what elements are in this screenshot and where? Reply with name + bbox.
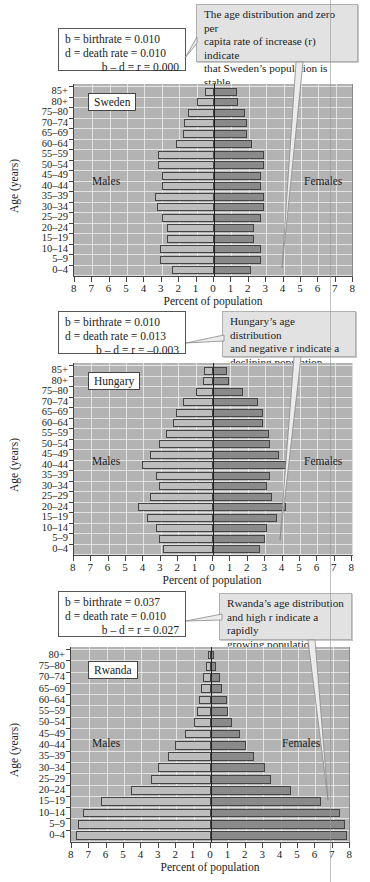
callout-line: Rwanda’s age distribution <box>227 597 344 611</box>
x-tick-label: 3 <box>255 848 269 860</box>
females-label: Females <box>282 737 320 749</box>
y-tick <box>66 818 70 819</box>
bar-male <box>78 820 211 829</box>
bar-female <box>211 786 291 795</box>
callout-line: and high r indicate a rapidly <box>227 611 344 638</box>
y-tick <box>66 705 70 706</box>
age-label: 10–14 <box>21 807 65 818</box>
bar-male <box>201 684 211 693</box>
y-tick <box>66 649 70 650</box>
bar-female <box>211 797 321 806</box>
age-label: 25–29 <box>21 773 65 784</box>
y-tick <box>66 796 70 797</box>
bar-male <box>175 741 211 750</box>
x-tick-label: 7 <box>325 848 339 860</box>
country-label: Rwanda <box>88 661 138 679</box>
bar-male <box>203 673 211 682</box>
bar-male <box>199 696 211 705</box>
age-label: 20–24 <box>21 784 65 795</box>
bar-female <box>211 741 246 750</box>
bar-female <box>211 752 254 761</box>
bar-male <box>185 730 211 739</box>
bar-female <box>211 809 340 818</box>
y-tick <box>66 683 70 684</box>
x-tick-label: 2 <box>168 848 182 860</box>
x-tick-label: 1 <box>220 848 234 860</box>
y-tick <box>66 717 70 718</box>
y-tick <box>66 762 70 763</box>
bar-male <box>197 707 211 716</box>
x-tick-label: 8 <box>64 848 78 860</box>
x-tick-label: 4 <box>273 848 287 860</box>
gridline-horizontal <box>71 841 349 842</box>
bar-female <box>211 718 232 727</box>
y-tick <box>66 751 70 752</box>
bar-male <box>194 718 211 727</box>
age-label: 70–74 <box>21 671 65 682</box>
age-label: 80+ <box>21 649 65 660</box>
age-label: 50–54 <box>21 716 65 727</box>
age-label: 40–44 <box>21 739 65 750</box>
bar-male <box>101 797 211 806</box>
age-label: 75–80 <box>21 660 65 671</box>
panel-rwanda: b = birthrate = 0.037d = death rate = 0.… <box>0 0 370 882</box>
bar-male <box>158 763 211 772</box>
bar-male <box>83 809 211 818</box>
y-tick <box>66 773 70 774</box>
age-label: 35–39 <box>21 750 65 761</box>
bar-female <box>211 707 228 716</box>
rate-stats-box: b = birthrate = 0.037d = death rate = 0.… <box>58 591 186 637</box>
x-tick-label: 7 <box>81 848 95 860</box>
bar-female <box>211 684 222 693</box>
bar-male <box>168 752 212 761</box>
y-axis-title: Age (years) <box>8 723 20 777</box>
x-tick-label: 5 <box>290 848 304 860</box>
bar-male <box>131 786 211 795</box>
zero-axis-line <box>211 647 212 842</box>
age-label: 55–59 <box>21 705 65 716</box>
age-label: 15–19 <box>21 795 65 806</box>
age-label: 45–49 <box>21 728 65 739</box>
y-tick <box>66 739 70 740</box>
age-label: 0–4 <box>21 829 65 840</box>
x-tick-label: 6 <box>307 848 321 860</box>
bar-female <box>211 730 240 739</box>
x-tick-label: 3 <box>151 848 165 860</box>
deathrate-text: d = death rate = 0.010 <box>65 609 179 623</box>
x-tick-label: 4 <box>133 848 147 860</box>
males-label: Males <box>92 737 120 749</box>
x-tick-label: 5 <box>116 848 130 860</box>
bar-female <box>211 673 220 682</box>
x-tick-label: 6 <box>99 848 113 860</box>
x-tick-label: 1 <box>186 848 200 860</box>
x-tick-label: 8 <box>342 848 356 860</box>
bar-female <box>211 696 227 705</box>
growth-rate-text: b – d = r = 0.027 <box>65 623 179 637</box>
bar-female <box>211 820 345 829</box>
y-tick <box>66 728 70 729</box>
age-label: 5–9 <box>21 818 65 829</box>
y-tick <box>66 660 70 661</box>
age-label: 60–64 <box>21 694 65 705</box>
bar-female <box>211 831 347 840</box>
y-tick <box>66 785 70 786</box>
page-edge-line <box>330 0 331 882</box>
y-tick <box>66 807 70 808</box>
bar-male <box>76 831 211 840</box>
y-tick <box>66 694 70 695</box>
x-tick-label: 2 <box>238 848 252 860</box>
age-label: 65–69 <box>21 683 65 694</box>
y-tick <box>66 672 70 673</box>
x-axis-title: Percent of population <box>110 861 310 873</box>
bar-male <box>151 775 211 784</box>
bar-female <box>211 775 271 784</box>
callout-box: Rwanda’s age distributionand high r indi… <box>219 593 352 640</box>
birthrate-text: b = birthrate = 0.037 <box>65 595 179 609</box>
bar-female <box>211 763 265 772</box>
age-label: 30–34 <box>21 762 65 773</box>
x-tick-label: 0 <box>203 848 217 860</box>
y-tick <box>66 830 70 831</box>
